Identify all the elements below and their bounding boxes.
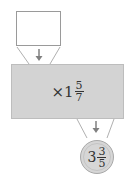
operation-denominator: 7 [76,92,83,103]
output-denominator: 5 [98,158,105,169]
operation-label: × 1 5 7 [11,64,124,119]
operation-whole: 1 [64,83,74,101]
input-box[interactable] [16,11,61,46]
output-whole: 3 [88,149,97,165]
operation-symbol: × [51,83,64,101]
output-fraction: 3 5 [97,146,106,169]
output-numerator: 3 [97,146,106,158]
output-circle: 3 3 5 [80,140,114,174]
operation-fraction: 5 7 [75,80,84,103]
